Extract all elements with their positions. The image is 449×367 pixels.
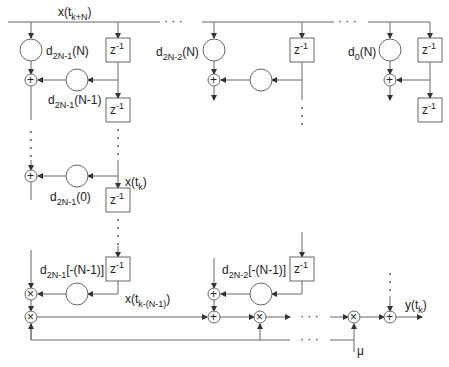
coef-label-d2N1-N: d2N-1(N): [46, 44, 89, 61]
svg-text:×: ×: [27, 287, 34, 301]
input-signal-label: x(tk+N): [58, 5, 92, 22]
coef-label-d2N1-neg: d2N-1[-(N-1)]: [40, 263, 104, 280]
output-ellipsis: · · ·: [300, 309, 319, 323]
svg-text:×: ×: [256, 310, 263, 324]
svg-text:+: +: [210, 310, 217, 324]
svg-text:+: +: [27, 73, 34, 87]
coef-d2N1-N: [20, 39, 42, 61]
coef-d2N2-neg: [250, 283, 272, 305]
coef-label-d2N1-N1: d2N-1(N-1): [48, 93, 102, 110]
mu-label: μ: [357, 344, 364, 358]
coef-label-d2N2-neg: d2N-2[-(N-1)]: [222, 263, 286, 280]
svg-text:+: +: [386, 73, 393, 87]
output-signal-label: y(tk): [405, 298, 427, 315]
svg-text:+: +: [210, 287, 217, 301]
bus-ellipsis-1: · · ·: [164, 14, 183, 28]
coef-d2N1-0: [66, 165, 88, 187]
mu-ellipsis: · · ·: [300, 332, 319, 346]
coef-d2N1-neg: [66, 283, 88, 305]
signal-label-x-tkN1: x(tk-(N-1)): [125, 292, 170, 309]
svg-text:×: ×: [350, 310, 357, 324]
svg-text:×: ×: [27, 310, 34, 324]
coef-label-d2N2-N: d2N-2(N): [156, 45, 199, 62]
diagram-canvas: x(tk+N) · · · · · · d2N-1(N) + + z-1 d2N…: [0, 0, 449, 367]
coef-d0-N: [379, 39, 401, 61]
svg-text:+: +: [386, 310, 393, 324]
coef-d2N2-N1: [250, 69, 272, 91]
svg-text:+: +: [210, 73, 217, 87]
coef-d2N1-N1: [66, 69, 88, 91]
bus-ellipsis-2: · · ·: [338, 14, 357, 28]
block-diagram: x(tk+N) · · · · · · d2N-1(N) + + z-1 d2N…: [0, 0, 449, 367]
coef-label-d2N1-0: d2N-1(0): [50, 190, 91, 207]
coef-d2N2-N: [203, 39, 225, 61]
svg-text:+: +: [27, 169, 34, 183]
coef-label-d0-N: d0(N): [348, 45, 376, 62]
